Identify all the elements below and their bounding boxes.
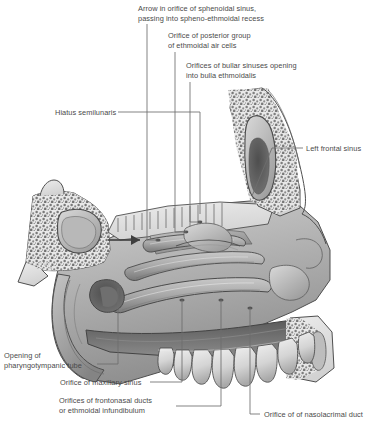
label-line: Orifices of bullar sinuses opening (186, 61, 297, 71)
label-hiatus-semilunaris: Hiatus semilunaris (55, 108, 116, 118)
label-line: or ethmoidal infundibulum (59, 406, 152, 416)
leader-sphenoidal-sinus (147, 24, 157, 240)
label-sphenoidal-sinus-arrow: Arrow in orifice of sphenoidal sinus,pas… (138, 4, 264, 23)
label-line: passing into spheno-ethmoidal recess (138, 14, 264, 24)
label-line: of ethmoidal air cells (168, 41, 251, 51)
label-bullar-sinuses: Orifices of bullar sinuses openinginto b… (186, 61, 297, 80)
label-pharyngotympanic-tube: Opening ofpharyngotympanic tube (4, 351, 82, 370)
label-line: Orifice of maxillary sinus (60, 378, 141, 388)
label-line: into bulla ethmoidalis (186, 71, 297, 81)
label-line: Orifices of frontonasal ducts (59, 396, 152, 406)
label-left-frontal-sinus: Left frontal sinus (306, 144, 361, 154)
leader-bullar-sinuses (190, 82, 200, 222)
label-nasolacrimal-duct: Orifice of of nasolacrimal duct (264, 410, 363, 420)
label-posterior-ethmoidal-air-cells: Orifice of posterior groupof ethmoidal a… (168, 31, 251, 50)
label-line: Arrow in orifice of sphenoidal sinus, (138, 4, 264, 14)
leader-hiatus-semilunaris (118, 112, 200, 214)
label-frontonasal-ducts: Orifices of frontonasal ductsor ethmoida… (59, 396, 152, 415)
label-line: Orifice of of nasolacrimal duct (264, 410, 363, 420)
label-line: Hiatus semilunaris (55, 108, 116, 118)
label-maxillary-sinus: Orifice of maxillary sinus (60, 378, 141, 388)
label-line: Left frontal sinus (306, 144, 361, 154)
label-line: Orifice of posterior group (168, 31, 251, 41)
label-line: pharyngotympanic tube (4, 361, 82, 371)
label-line: Opening of (4, 351, 82, 361)
left-frontal-sinus-cavity (245, 116, 276, 200)
nasal-cavity-illustration: Arrow in orifice of sphenoidal sinus,pas… (0, 0, 388, 429)
